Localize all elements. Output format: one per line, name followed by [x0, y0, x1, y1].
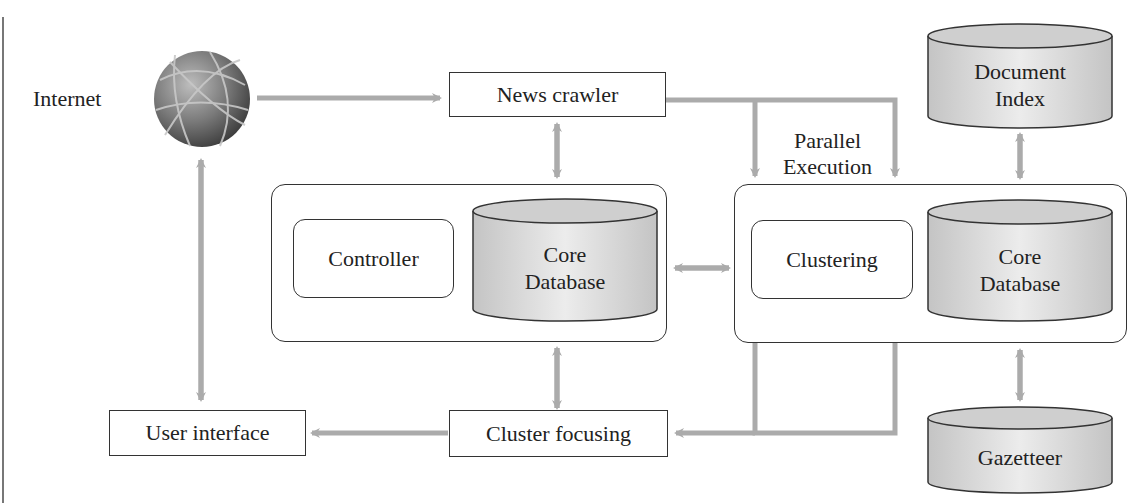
user-interface-label: User interface	[146, 420, 270, 446]
globe-icon	[154, 51, 250, 147]
controller-label: Controller	[328, 246, 418, 272]
clustering-box: Clustering	[751, 220, 913, 299]
parallel-line2: Execution	[770, 154, 885, 180]
internet-label: Internet	[33, 86, 101, 112]
news-crawler-box: News crawler	[449, 72, 666, 117]
cluster-focusing-label: Cluster focusing	[486, 421, 631, 447]
cluster-focusing-box: Cluster focusing	[449, 410, 668, 457]
user-interface-box: User interface	[109, 410, 306, 456]
news-crawler-label: News crawler	[497, 82, 619, 108]
clustering-label: Clustering	[786, 247, 878, 273]
right-core-database-label: Core Database	[928, 230, 1112, 310]
parallel-line1: Parallel	[770, 128, 885, 154]
parallel-execution-label: Parallel Execution	[770, 128, 885, 180]
left-core-database-label: Core Database	[473, 228, 657, 308]
controller-box: Controller	[293, 219, 454, 298]
document-index-label: Document Index	[928, 50, 1112, 120]
gazetteer-label: Gazetteer	[928, 432, 1112, 482]
